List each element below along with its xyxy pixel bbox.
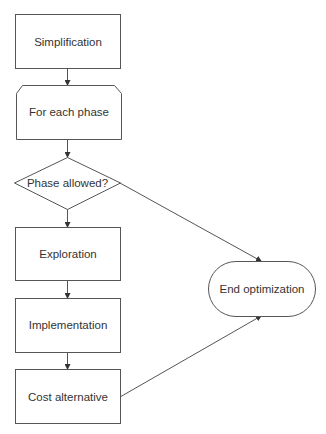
node-label: Phase allowed?: [27, 177, 108, 189]
node-label: Simplification: [34, 36, 102, 48]
flowchart-canvas: Simplification For each phase Phase allo…: [0, 0, 326, 434]
edge-phase-allowed-to-end-optimization: [120, 183, 261, 261]
edge-cost-alternative-to-end-optimization: [120, 316, 261, 397]
node-label: Cost alternative: [28, 391, 108, 403]
node-phase-allowed[interactable]: Phase allowed?: [15, 158, 121, 210]
node-label: For each phase: [29, 106, 109, 118]
node-label: Exploration: [39, 248, 97, 260]
node-for-each-phase[interactable]: For each phase: [17, 86, 122, 140]
node-end-optimization[interactable]: End optimization: [209, 262, 316, 317]
node-label: Implementation: [29, 319, 108, 331]
node-implementation[interactable]: Implementation: [16, 299, 121, 353]
node-label: End optimization: [219, 283, 304, 295]
node-cost-alternative[interactable]: Cost alternative: [16, 370, 121, 424]
node-exploration[interactable]: Exploration: [16, 228, 121, 281]
node-simplification[interactable]: Simplification: [16, 15, 121, 69]
